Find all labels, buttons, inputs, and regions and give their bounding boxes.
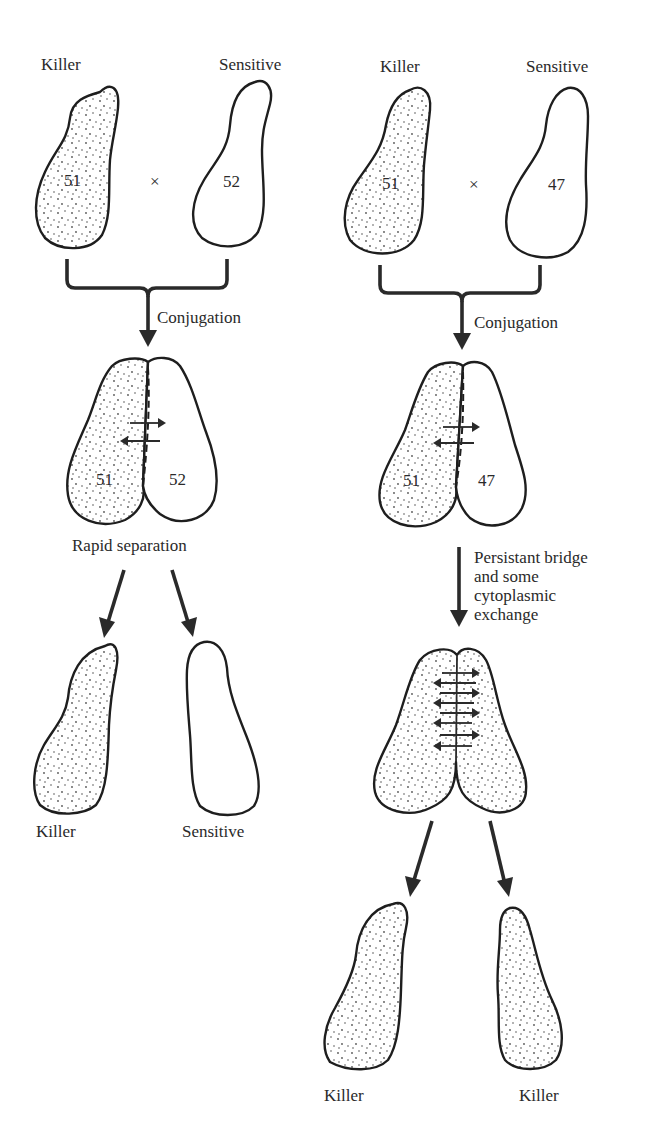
label-offspring-sensitive: Sensitive	[182, 822, 244, 841]
killer-cell	[345, 88, 431, 254]
label-bridge-line4: exchange	[474, 605, 538, 624]
sensitive-cell	[506, 88, 588, 258]
label-killer-parent: Killer	[380, 57, 420, 76]
cross-symbol: ×	[150, 172, 160, 191]
label-offspring-killer-right: Killer	[519, 1086, 559, 1105]
label-killer-parent: Killer	[41, 55, 81, 74]
sensitive-mating-type: 47	[548, 175, 566, 194]
arrow-head	[453, 333, 471, 350]
sensitive-cell	[193, 81, 271, 246]
pair-left-number: 51	[403, 471, 420, 490]
killer-mating-type: 51	[382, 174, 399, 193]
arrow-head	[139, 330, 157, 347]
killer-cell	[36, 87, 118, 248]
label-sensitive-parent: Sensitive	[219, 55, 281, 74]
right-panel: Killer Sensitive 51 × 47 Conjugation 51 …	[324, 57, 588, 1105]
pair-left-number: 51	[96, 470, 113, 489]
label-bridge-line2: and some	[474, 567, 539, 586]
separation-arrow-right	[490, 821, 504, 880]
pair-right-number: 47	[478, 471, 496, 490]
conjugation-diagram: Killer Sensitive 51 × 52 Conjugation 51 …	[0, 0, 653, 1140]
conjugation-bracket	[67, 259, 227, 296]
label-offspring-killer: Killer	[36, 822, 76, 841]
label-offspring-killer-left: Killer	[324, 1086, 364, 1105]
separation-arrow-right	[172, 570, 188, 622]
left-panel: Killer Sensitive 51 × 52 Conjugation 51 …	[34, 55, 281, 841]
label-rapid-separation: Rapid separation	[72, 536, 187, 555]
killer-mating-type: 51	[64, 171, 81, 190]
label-bridge-line3: cytoplasmic	[474, 586, 557, 605]
label-bridge-line1: Persistant bridge	[474, 548, 588, 567]
offspring-sensitive-cell	[187, 642, 259, 815]
label-sensitive-parent: Sensitive	[526, 57, 588, 76]
arrow-head	[450, 610, 468, 627]
label-conjugation: Conjugation	[474, 313, 559, 332]
pair-left-half	[379, 363, 463, 527]
conjugation-bracket	[380, 265, 540, 301]
pair-right-number: 52	[169, 470, 186, 489]
separation-arrow-left	[108, 570, 124, 622]
separation-arrow-left	[414, 821, 432, 880]
pair-right-half	[143, 358, 217, 521]
cross-symbol: ×	[469, 175, 479, 194]
offspring-killer-cell-right	[497, 908, 561, 1069]
offspring-killer-cell-left	[325, 903, 408, 1069]
label-conjugation: Conjugation	[157, 308, 242, 327]
offspring-killer-cell	[34, 644, 117, 813]
sensitive-mating-type: 52	[223, 172, 240, 191]
